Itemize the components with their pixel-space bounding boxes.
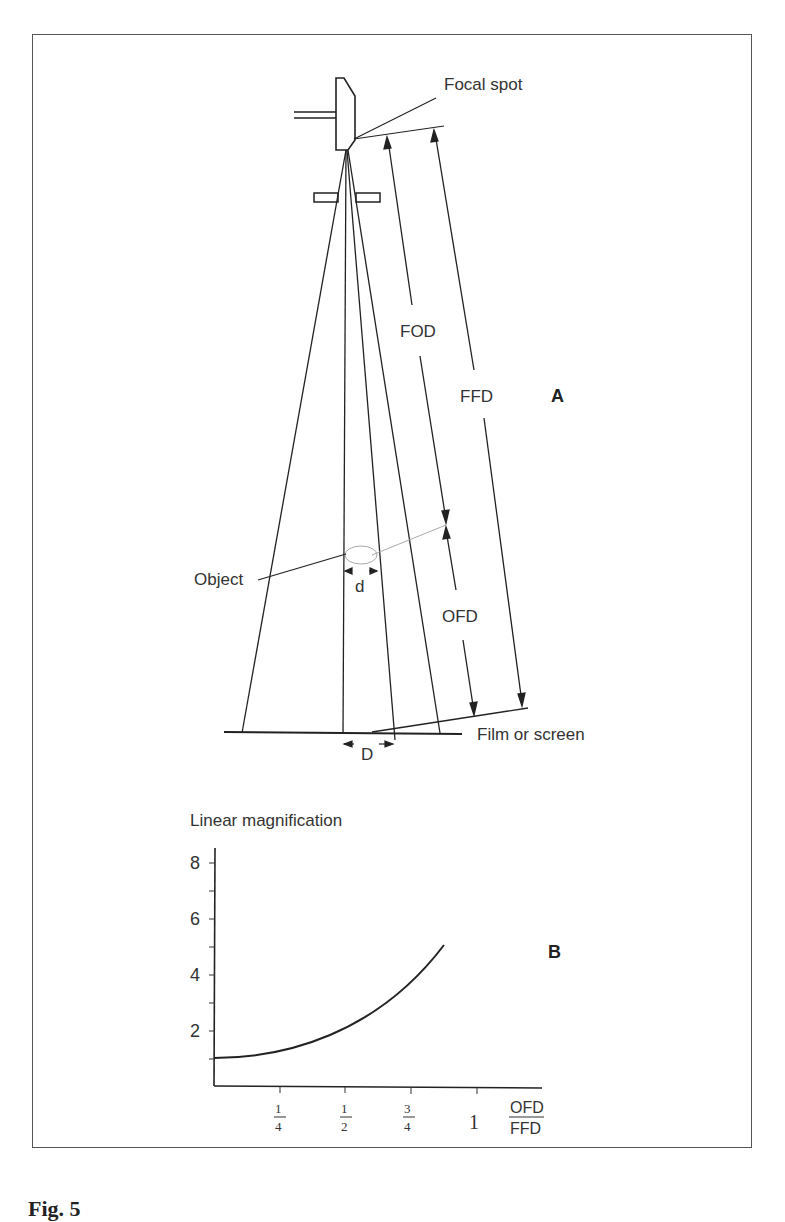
y-axis-title: Linear magnification: [190, 811, 342, 830]
beam-rays: [242, 150, 440, 740]
svg-text:2: 2: [341, 1119, 348, 1134]
image-size-label: D: [361, 745, 373, 764]
magnification-curve: [214, 945, 444, 1058]
svg-text:1: 1: [341, 1101, 348, 1116]
y-tick-6: 6: [190, 909, 200, 929]
object-size-label: d: [355, 577, 364, 596]
svg-text:3: 3: [404, 1101, 411, 1116]
object-label: Object: [194, 570, 243, 589]
xray-tube: [294, 78, 355, 150]
x-tick-one: 1: [469, 1111, 479, 1133]
y-tick-2: 2: [190, 1021, 200, 1041]
ofd-label: OFD: [442, 607, 478, 626]
y-tick-8: 8: [190, 853, 200, 873]
x-axis-label: OFD FFD: [509, 1099, 544, 1137]
film-label: Film or screen: [477, 725, 585, 744]
x-tick-three-quarters: 3 4: [403, 1101, 415, 1134]
y-tick-4: 4: [190, 965, 200, 985]
svg-text:1: 1: [275, 1101, 282, 1116]
film-line: [224, 732, 462, 734]
figure-caption: Fig. 5: [28, 1196, 81, 1222]
d-dimension: [345, 568, 377, 574]
panel-b-label: B: [548, 942, 561, 962]
focal-spot-leader: [354, 98, 444, 139]
x-tick-quarter: 1 4: [274, 1101, 286, 1134]
chart-axes: [214, 848, 542, 1088]
svg-text:4: 4: [404, 1119, 411, 1134]
object-ref-line: [372, 525, 446, 555]
collimator: [314, 193, 380, 202]
ffd-label: FFD: [460, 387, 493, 406]
x-tick-half: 1 2: [340, 1101, 352, 1134]
fod-label: FOD: [400, 322, 436, 341]
panel-a-label: A: [551, 386, 564, 406]
svg-text:OFD: OFD: [510, 1099, 544, 1116]
svg-text:4: 4: [275, 1119, 282, 1134]
svg-text:FFD: FFD: [510, 1120, 541, 1137]
focal-spot-label: Focal spot: [444, 75, 523, 94]
